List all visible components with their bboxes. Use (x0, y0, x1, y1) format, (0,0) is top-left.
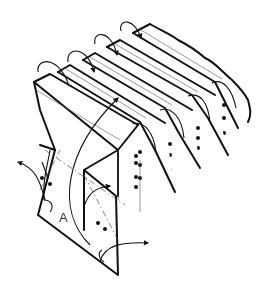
pleated-filter-diagram: A (0, 0, 273, 295)
label-a: A (59, 210, 68, 225)
